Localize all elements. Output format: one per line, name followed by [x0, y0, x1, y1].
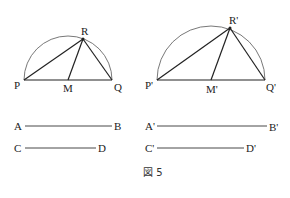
label-Q: Q [114, 81, 122, 93]
left-semicircle [24, 36, 112, 80]
right-semicircle [157, 26, 265, 80]
segments: A B C D A' B' C' D' [14, 120, 278, 154]
right-RM [211, 28, 230, 80]
figure-caption: 図 5 [143, 167, 163, 178]
label-M-prime: M' [206, 83, 218, 95]
figure-5-diagram: P Q R M P' Q' R' M' A B C D A' B' C' D' … [0, 0, 290, 198]
left-PR [24, 39, 83, 80]
label-A: A [14, 120, 22, 132]
right-RQ [230, 28, 265, 80]
right-diagram: P' Q' R' M' [145, 14, 276, 95]
label-B: B [114, 120, 121, 132]
label-P: P [14, 79, 20, 91]
label-P-prime: P' [145, 79, 153, 91]
label-B-prime: B' [269, 121, 278, 133]
label-D-prime: D' [246, 142, 256, 154]
left-diagram: P Q R M [14, 25, 122, 94]
left-RM [68, 39, 83, 80]
label-D: D [98, 142, 106, 154]
right-point-R [229, 27, 232, 30]
left-point-R [82, 38, 85, 41]
right-PR [157, 28, 230, 80]
label-Q-prime: Q' [266, 81, 276, 93]
label-R-prime: R' [229, 14, 238, 26]
label-C-prime: C' [145, 142, 154, 154]
left-RQ [83, 39, 112, 80]
label-C: C [14, 142, 21, 154]
label-R: R [81, 25, 89, 37]
label-M: M [63, 82, 73, 94]
label-A-prime: A' [145, 120, 155, 132]
